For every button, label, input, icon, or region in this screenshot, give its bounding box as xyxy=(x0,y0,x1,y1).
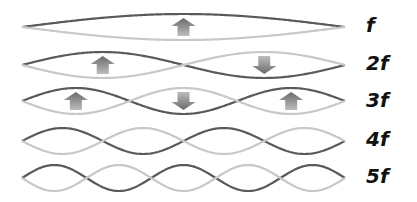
arrow-up-icon xyxy=(91,56,115,74)
harmonics-diagram xyxy=(0,0,417,202)
harmonic-label-4: 4f xyxy=(366,127,389,151)
wave-light-4f xyxy=(22,128,345,154)
arrow-up-icon xyxy=(172,18,196,36)
arrow-down-icon xyxy=(172,92,196,110)
harmonic-label-5: 5f xyxy=(366,164,389,188)
arrow-down-icon xyxy=(252,56,276,74)
wave-light-2f xyxy=(22,52,345,78)
harmonic-label-3: 3f xyxy=(366,88,389,112)
arrow-up-icon xyxy=(64,92,88,110)
arrow-up-icon xyxy=(279,92,303,110)
harmonic-label-2: 2f xyxy=(366,51,389,75)
harmonic-label-1: f xyxy=(366,13,375,37)
